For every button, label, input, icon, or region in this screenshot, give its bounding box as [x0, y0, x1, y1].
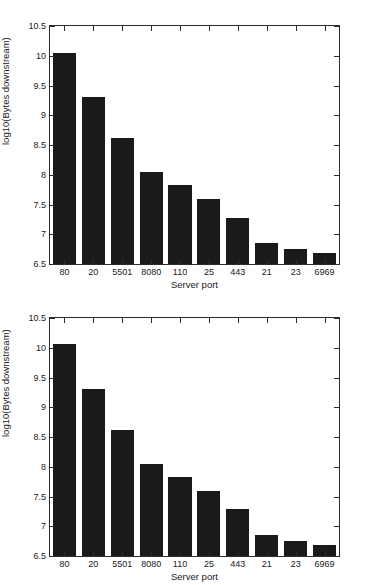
x-axis-tick-label: 110 — [173, 268, 187, 277]
y-axis-tick-right — [334, 234, 339, 235]
y-axis-tick-right — [334, 264, 339, 265]
x-axis-tick-top — [325, 26, 326, 31]
bar — [168, 185, 191, 264]
x-axis-title-bottom: Server port — [49, 571, 340, 582]
x-axis-tick — [180, 259, 181, 264]
y-axis-tick — [50, 56, 55, 57]
x-axis-tick-top — [267, 26, 268, 31]
bar — [197, 199, 220, 264]
x-axis-tick-label: 443 — [230, 560, 245, 569]
y-axis-tick — [50, 378, 55, 379]
bar-chart-panel-bottom: log10(Bytes downstream) Server port 6.57… — [0, 292, 365, 585]
x-axis-tick-label: 6969 — [315, 560, 335, 569]
bar — [140, 464, 163, 556]
x-axis-tick-top — [209, 26, 210, 31]
x-axis-tick-top — [209, 318, 210, 323]
bar — [111, 430, 134, 556]
y-axis-tick-label: 9 — [41, 403, 46, 412]
x-axis-tick-label: 20 — [88, 268, 98, 277]
x-axis-tick — [122, 259, 123, 264]
x-axis-tick-label: 110 — [173, 560, 187, 569]
y-axis-title-top: log10(Bytes downstream) — [0, 37, 11, 145]
x-axis-tick-label: 23 — [291, 560, 301, 569]
y-axis-tick-right — [334, 56, 339, 57]
x-axis-tick-label: 6969 — [315, 268, 335, 277]
y-axis-tick-right — [334, 526, 339, 527]
y-axis-tick — [50, 234, 55, 235]
y-axis-tick-right — [334, 497, 339, 498]
x-axis-tick-label: 5501 — [112, 268, 132, 277]
y-axis-tick — [50, 437, 55, 438]
y-axis-tick — [50, 145, 55, 146]
x-axis-tick-label: 443 — [230, 268, 245, 277]
x-axis-tick — [209, 259, 210, 264]
y-axis-tick-label: 10.5 — [28, 22, 46, 31]
y-axis-tick-right — [334, 407, 339, 408]
y-axis-tick-label: 6.5 — [33, 552, 46, 561]
x-axis-tick-top — [180, 26, 181, 31]
y-axis-tick-label: 9 — [41, 111, 46, 120]
y-axis-tick-label: 7.5 — [33, 200, 46, 209]
y-axis-tick-label: 9.5 — [33, 81, 46, 90]
x-axis-tick-top — [93, 26, 94, 31]
x-axis-tick — [296, 259, 297, 264]
y-axis-tick-label: 9.5 — [33, 373, 46, 382]
x-axis-tick — [180, 551, 181, 556]
x-axis-tick-label: 8080 — [141, 268, 161, 277]
x-axis-tick-top — [325, 318, 326, 323]
bar — [197, 491, 220, 556]
y-axis-tick-right — [334, 205, 339, 206]
y-axis-tick-label: 10.5 — [28, 314, 46, 323]
x-axis-tick — [151, 551, 152, 556]
y-axis-tick-label: 10 — [36, 343, 46, 352]
y-axis-tick — [50, 526, 55, 527]
x-axis-tick-top — [180, 318, 181, 323]
y-axis-tick-label: 10 — [36, 51, 46, 60]
bar — [82, 389, 105, 556]
y-axis-tick-label: 6.5 — [33, 260, 46, 269]
y-axis-tick-right — [334, 318, 339, 319]
y-axis-tick-label: 7.5 — [33, 492, 46, 501]
y-axis-tick — [50, 467, 55, 468]
x-axis-tick-top — [238, 318, 239, 323]
y-axis-tick — [50, 264, 55, 265]
x-axis-tick — [93, 259, 94, 264]
y-axis-tick — [50, 497, 55, 498]
x-axis-tick-top — [296, 318, 297, 323]
x-axis-tick — [122, 551, 123, 556]
y-axis-tick — [50, 205, 55, 206]
x-axis-tick — [151, 259, 152, 264]
y-axis-tick-right — [334, 437, 339, 438]
bar — [140, 172, 163, 264]
x-axis-tick — [64, 551, 65, 556]
y-axis-tick-label: 8.5 — [33, 141, 46, 150]
y-axis-tick — [50, 407, 55, 408]
y-axis-tick-right — [334, 467, 339, 468]
y-axis-tick — [50, 175, 55, 176]
x-axis-tick-label: 80 — [59, 560, 69, 569]
x-axis-tick — [267, 551, 268, 556]
y-axis-tick-right — [334, 115, 339, 116]
x-axis-tick — [325, 551, 326, 556]
bar — [168, 477, 191, 556]
y-axis-tick-label: 8 — [41, 170, 46, 179]
x-axis-tick-label: 8080 — [141, 560, 161, 569]
y-axis-tick-right — [334, 145, 339, 146]
y-axis-tick-right — [334, 378, 339, 379]
x-axis-tick-top — [296, 26, 297, 31]
x-axis-tick-label: 20 — [88, 560, 98, 569]
x-axis-tick — [238, 259, 239, 264]
bar — [53, 344, 76, 556]
bar — [226, 218, 249, 264]
x-axis-tick-label: 23 — [291, 268, 301, 277]
x-axis-tick-label: 25 — [204, 268, 214, 277]
x-axis-tick-label: 5501 — [112, 560, 132, 569]
y-axis-tick-label: 7 — [41, 230, 46, 239]
bar-chart-panel-top: log10(Bytes downstream) Server port 6.57… — [0, 0, 365, 292]
x-axis-title-top: Server port — [49, 279, 340, 290]
x-axis-tick-label: 21 — [262, 268, 272, 277]
bar — [226, 509, 249, 556]
plot-area-top: 6.577.588.599.51010.58020550180801102544… — [49, 25, 340, 265]
x-axis-tick-top — [238, 26, 239, 31]
x-axis-tick — [209, 551, 210, 556]
